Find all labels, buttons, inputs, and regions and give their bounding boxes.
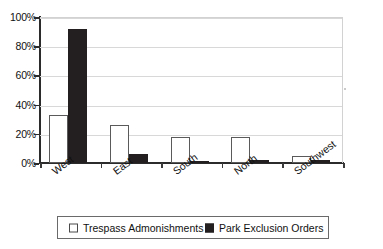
legend-entry[interactable]: Park Exclusion Orders bbox=[205, 222, 323, 233]
y-axis-tick-mark bbox=[34, 17, 39, 19]
y-axis-tick-mark bbox=[34, 46, 39, 48]
legend-label: Trespass Admonishments bbox=[83, 222, 203, 233]
bars-layer bbox=[40, 17, 343, 163]
x-axis-tick-mark bbox=[222, 163, 224, 168]
legend-swatch-icon bbox=[69, 223, 78, 232]
y-axis-tick-label: 40% bbox=[0, 99, 36, 110]
y-axis-tick-label: 20% bbox=[0, 129, 36, 140]
x-axis-tick-mark bbox=[343, 163, 345, 168]
x-axis-tick-mark bbox=[101, 163, 103, 168]
y-axis-tick-mark bbox=[34, 105, 39, 107]
scan-speck bbox=[344, 88, 346, 90]
y-axis-tick-mark bbox=[34, 134, 39, 136]
x-axis-tick-mark bbox=[282, 163, 284, 168]
x-axis-labels: WestEastSouthNorthSouthwest bbox=[40, 168, 343, 212]
y-axis-tick-label: 100% bbox=[0, 12, 36, 23]
bar-chart: 0%20%40%60%80%100% WestEastSouthNorthSou… bbox=[0, 0, 383, 249]
legend-swatch-icon bbox=[205, 223, 214, 232]
x-axis-tick-mark bbox=[161, 163, 163, 168]
x-axis-tick-mark bbox=[40, 163, 42, 168]
y-axis-tick-mark bbox=[34, 75, 39, 77]
legend-label: Park Exclusion Orders bbox=[219, 222, 323, 233]
bar bbox=[68, 29, 87, 163]
chart-legend: Trespass AdmonishmentsPark Exclusion Ord… bbox=[57, 216, 329, 239]
y-axis-labels: 0%20%40%60%80%100% bbox=[0, 10, 36, 170]
y-axis-tick-label: 80% bbox=[0, 41, 36, 52]
legend-entry[interactable]: Trespass Admonishments bbox=[69, 222, 203, 233]
y-axis-tick-mark bbox=[34, 163, 39, 165]
y-axis-tick-label: 60% bbox=[0, 70, 36, 81]
y-axis-tick-label: 0% bbox=[0, 158, 36, 169]
